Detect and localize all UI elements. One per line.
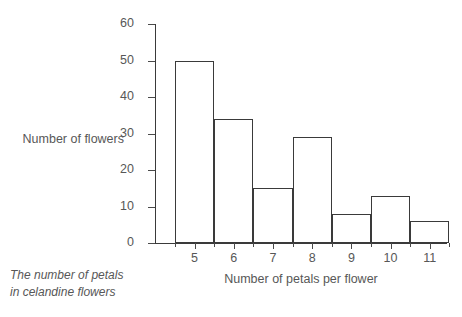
x-axis-minor-tick xyxy=(293,243,294,247)
x-axis-tick-label: 6 xyxy=(219,252,249,265)
x-axis-tick-label: 11 xyxy=(415,252,445,265)
figure-caption: The number of petals in celandine flower… xyxy=(10,267,145,302)
x-axis-tick-label: 8 xyxy=(297,252,327,265)
bars-container xyxy=(155,24,447,243)
y-axis-tick-label: 60 xyxy=(108,17,134,30)
y-axis-tick-label: 50 xyxy=(108,54,134,67)
y-axis-tick xyxy=(148,97,155,98)
y-axis-tick xyxy=(148,24,155,25)
bar xyxy=(293,137,332,243)
bar xyxy=(332,214,371,243)
x-axis-minor-tick xyxy=(371,243,372,247)
y-axis-tick xyxy=(148,207,155,208)
y-axis-label: Number of flowers xyxy=(8,132,124,146)
caption-line-1: The number of petals xyxy=(10,267,145,284)
x-axis-tick xyxy=(351,243,352,249)
bar xyxy=(175,61,214,244)
x-axis-minor-tick xyxy=(449,243,450,247)
bar xyxy=(371,196,410,243)
x-axis-tick-label: 10 xyxy=(376,252,406,265)
x-axis-tick xyxy=(234,243,235,249)
x-axis-tick xyxy=(312,243,313,249)
caption-line-2: in celandine flowers xyxy=(10,284,145,301)
x-axis-tick xyxy=(430,243,431,249)
x-axis-minor-tick xyxy=(332,243,333,247)
x-axis-minor-tick xyxy=(175,243,176,247)
y-axis-tick xyxy=(148,170,155,171)
x-axis-tick xyxy=(273,243,274,249)
x-axis-minor-tick xyxy=(410,243,411,247)
x-axis-label: Number of petals per flower xyxy=(155,272,447,286)
y-axis-tick xyxy=(148,61,155,62)
x-axis-tick-label: 5 xyxy=(180,252,210,265)
x-axis-tick xyxy=(391,243,392,249)
bar xyxy=(214,119,253,243)
y-axis-tick-label: 0 xyxy=(108,236,134,249)
x-axis-minor-tick xyxy=(214,243,215,247)
x-axis-line xyxy=(155,243,447,244)
y-axis-tick xyxy=(148,243,155,244)
y-axis-tick-label: 40 xyxy=(108,90,134,103)
x-axis-tick-label: 9 xyxy=(336,252,366,265)
x-axis-tick-label: 7 xyxy=(258,252,288,265)
y-axis-tick-label: 20 xyxy=(108,163,134,176)
x-axis-minor-tick xyxy=(253,243,254,247)
bar xyxy=(410,221,449,243)
y-axis-tick-label: 10 xyxy=(108,200,134,213)
x-axis-tick xyxy=(195,243,196,249)
y-axis-tick xyxy=(148,134,155,135)
bar-chart-figure: 0102030405060 567891011 Number of petals… xyxy=(0,0,462,317)
bar xyxy=(253,188,292,243)
